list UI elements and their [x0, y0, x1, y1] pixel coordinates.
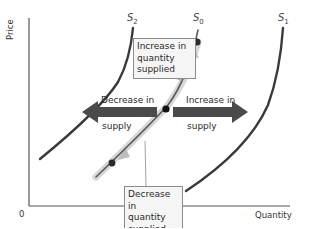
callout-line: quantity — [128, 212, 179, 224]
point-lower — [109, 160, 116, 167]
increase-supply-label-line1: Increase in — [186, 95, 235, 106]
bottom-callout-leader — [145, 141, 146, 187]
curve-label-s1: S1 — [278, 12, 289, 28]
point-equilibrium — [162, 105, 169, 112]
curve-s2 — [40, 28, 133, 159]
curve-label-s2: S2 — [127, 12, 138, 28]
origin-label: 0 — [19, 209, 24, 220]
decrease-quantity-supplied-callout: Decrease in quantity supplied — [124, 186, 183, 228]
y-axis-label: Price — [5, 19, 16, 40]
callout-line: Decrease in — [128, 189, 179, 212]
increase-supply-label-line2: supply — [187, 121, 217, 132]
callout-line: Increase in — [137, 41, 192, 53]
x-axis-label: Quantity — [255, 210, 292, 221]
increase-quantity-supplied-callout: Increase in quantity supplied — [133, 38, 196, 79]
decrease-supply-label-line2: supply — [102, 121, 132, 132]
callout-line: supplied — [137, 64, 192, 76]
curve-label-s0: S0 — [193, 12, 204, 28]
callout-line: supplied — [128, 224, 179, 229]
decrease-supply-label-line1: Decrease in — [101, 95, 154, 106]
callout-line: quantity — [137, 53, 192, 65]
